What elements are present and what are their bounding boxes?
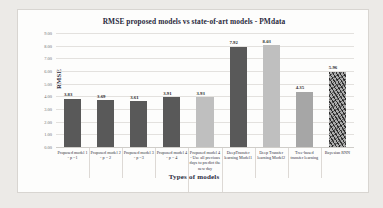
- bar-column[interactable]: 5.96: [329, 33, 346, 147]
- bar-value-label: 3.69: [97, 94, 105, 99]
- x-axis-category-label: Tree-based transfer learning: [289, 150, 320, 160]
- bar[interactable]: 7.92: [230, 47, 247, 147]
- chart-card: RMSE proposed models vs state-of-art mod…: [17, 9, 369, 193]
- x-axis-category-label: Proposed model 3 - p =3: [123, 150, 154, 160]
- x-axis-separator: [222, 148, 223, 192]
- bar[interactable]: 3.83: [64, 99, 81, 148]
- bar[interactable]: 3.69: [97, 100, 114, 147]
- bar-value-label: 8.03: [263, 39, 271, 44]
- x-axis-category-label: Proposed model 2 - p = 2: [90, 150, 121, 160]
- bar-column[interactable]: 3.83: [64, 33, 81, 147]
- bar-column[interactable]: 3.61: [130, 33, 147, 147]
- bar-column[interactable]: 3.93: [196, 33, 213, 147]
- bar[interactable]: 5.96: [329, 72, 346, 147]
- x-axis-category-label: Bayesian RNN: [322, 150, 353, 155]
- y-axis-tick-label: 9.00: [24, 31, 52, 36]
- x-axis-category-label: DeepTransfer learning Model1: [223, 150, 254, 160]
- bar[interactable]: 8.03: [263, 45, 280, 147]
- plot-area: RMSE 9.008.007.006.005.004.003.002.001.0…: [56, 33, 354, 147]
- bar-value-label: 3.61: [130, 95, 138, 100]
- chart-title: RMSE proposed models vs state-of-art mod…: [18, 17, 370, 26]
- bar-column[interactable]: 3.69: [97, 33, 114, 147]
- y-axis-tick-label: 5.00: [24, 81, 52, 86]
- bar[interactable]: 3.91: [163, 97, 180, 147]
- y-axis-tick-label: 6.00: [24, 69, 52, 74]
- y-axis-tick-label: 3.00: [24, 107, 52, 112]
- y-axis-tick-label: 0.00: [24, 145, 52, 150]
- bar-value-label: 3.93: [196, 91, 204, 96]
- x-axis-separator: [188, 148, 189, 192]
- bar[interactable]: 4.35: [296, 92, 313, 147]
- y-axis-tick-label: 4.00: [24, 94, 52, 99]
- bar-value-label: 7.92: [230, 40, 238, 45]
- x-axis-category-label: Proposed model 1 - p =1: [57, 150, 88, 160]
- bar-value-label: 3.91: [163, 91, 171, 96]
- bar-value-label: 4.35: [296, 85, 304, 90]
- bar-column[interactable]: 7.92: [230, 33, 247, 147]
- screenshot-root: RMSE proposed models vs state-of-art mod…: [0, 0, 383, 208]
- y-axis-tick-label: 1.00: [24, 132, 52, 137]
- x-axis-category-label: Deep Transfer learning Model2: [256, 150, 287, 160]
- y-axis-tick-label: 2.00: [24, 119, 52, 124]
- x-axis-category-label: Proposed model 4 - Use all previous days…: [189, 150, 220, 171]
- x-axis-title: Types of models: [18, 173, 370, 181]
- bar-column[interactable]: 3.91: [163, 33, 180, 147]
- bar-value-label: 5.96: [329, 65, 337, 70]
- gridline: [56, 147, 354, 148]
- bar-column[interactable]: 4.35: [296, 33, 313, 147]
- bar[interactable]: 3.93: [196, 97, 213, 147]
- bar[interactable]: 3.61: [130, 101, 147, 147]
- bar-value-label: 3.83: [64, 92, 72, 97]
- bar-column[interactable]: 8.03: [263, 33, 280, 147]
- x-axis-category-label: Proposed model 4 - p = 4: [156, 150, 187, 160]
- y-axis-tick-label: 8.00: [24, 43, 52, 48]
- y-axis-tick-label: 7.00: [24, 56, 52, 61]
